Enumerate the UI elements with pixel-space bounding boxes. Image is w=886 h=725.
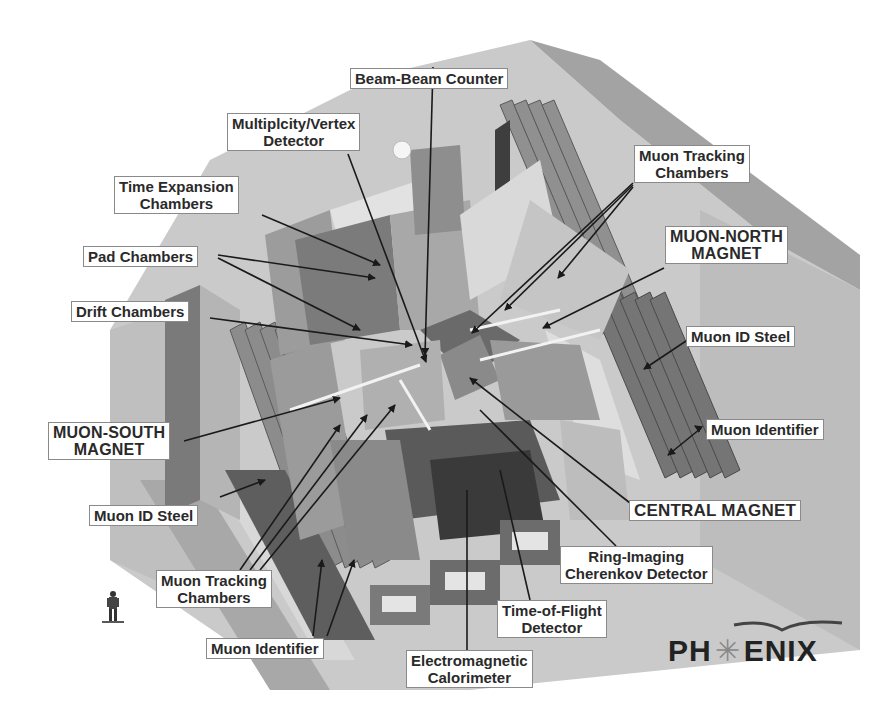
label-drift-chambers: Drift Chambers [71,301,189,322]
label-text: Detector [232,132,355,149]
label-central-magnet: CENTRAL MAGNET [629,500,801,521]
label-text: Muon ID Steel [94,507,193,524]
label-multiplicity-vertex-detector: Multiplcity/Vertex Detector [227,113,360,151]
phenix-diagram: Beam-Beam Counter Multiplcity/Vertex Det… [0,0,886,725]
person-scale-icon [101,590,125,626]
label-text: Drift Chambers [76,303,184,320]
label-text: Time Expansion [119,178,234,195]
label-muon-id-steel-right: Muon ID Steel [686,326,795,347]
label-text: Ring-Imaging [565,548,708,565]
label-text: MAGNET [670,245,783,262]
label-muon-tracking-chambers-left: Muon Tracking Chambers [156,570,272,608]
label-muon-identifier-left: Muon Identifier [206,638,324,659]
label-text: Multiplcity/Vertex [232,115,355,132]
label-pad-chambers: Pad Chambers [83,246,198,267]
label-time-expansion-chambers: Time Expansion Chambers [114,176,239,214]
star-icon: ✳ [712,633,744,668]
label-text: Muon Tracking [639,147,745,164]
label-muon-id-steel-left: Muon ID Steel [89,505,198,526]
label-text: MUON-NORTH [670,228,783,245]
label-text: Muon Identifier [711,421,819,438]
label-text: Chambers [161,589,267,606]
logo-left: PH [668,634,712,667]
label-muon-tracking-chambers-right: Muon Tracking Chambers [634,145,750,183]
label-electromagnetic-calorimeter: Electromagnetic Calorimeter [406,650,533,688]
label-muon-north-magnet: MUON-NORTH MAGNET [665,226,788,264]
label-text: MAGNET [53,441,165,458]
label-text: Detector [502,619,602,636]
label-text: Muon Identifier [211,640,319,657]
label-muon-south-magnet: MUON-SOUTH MAGNET [48,422,170,460]
label-ring-imaging-cherenkov-detector: Ring-Imaging Cherenkov Detector [560,546,713,584]
label-text: Pad Chambers [88,248,193,265]
phenix-logo: PH✳ENIX [668,617,886,677]
label-text: Calorimeter [411,669,528,686]
label-text: Time-of-Flight [502,602,602,619]
label-time-of-flight-detector: Time-of-Flight Detector [497,600,607,638]
logo-text: PH✳ENIX [668,633,818,668]
label-text: CENTRAL MAGNET [634,502,796,519]
label-beam-beam-counter: Beam-Beam Counter [350,68,508,89]
label-muon-identifier-right: Muon Identifier [706,419,824,440]
label-text: Beam-Beam Counter [355,70,503,87]
label-text: MUON-SOUTH [53,424,165,441]
logo-right: ENIX [744,634,818,667]
label-text: Chambers [119,195,234,212]
label-text: Muon Tracking [161,572,267,589]
label-text: Chambers [639,164,745,181]
label-text: Electromagnetic [411,652,528,669]
label-text: Muon ID Steel [691,328,790,345]
label-text: Cherenkov Detector [565,565,708,582]
